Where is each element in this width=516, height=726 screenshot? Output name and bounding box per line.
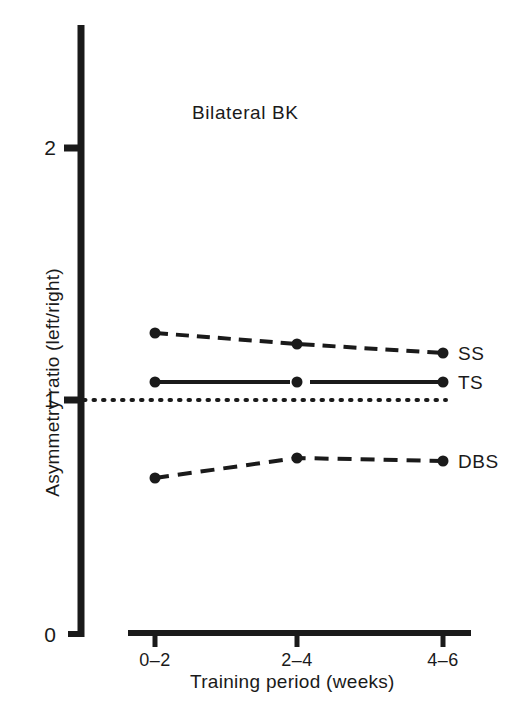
series-point-ts-1 bbox=[292, 377, 303, 388]
y-tick-label-0: 0 bbox=[30, 624, 56, 645]
series-point-ss-0 bbox=[150, 328, 161, 339]
series-point-ts-2 bbox=[438, 377, 449, 388]
legend-label-ts: TS bbox=[458, 373, 483, 392]
chart-title: Bilateral BK bbox=[192, 103, 298, 122]
series-point-ts-0 bbox=[150, 377, 161, 388]
y-tick-label-1: 1 bbox=[30, 389, 56, 410]
x-axis-label: Training period (weeks) bbox=[190, 672, 395, 691]
legend-label-dbs: DBS bbox=[458, 452, 499, 471]
x-tick-label-1: 2–4 bbox=[262, 651, 332, 669]
series-point-ss-2 bbox=[438, 348, 449, 359]
series-point-dbs-1 bbox=[292, 453, 303, 464]
series-point-ss-1 bbox=[292, 339, 303, 350]
y-tick-label-2: 2 bbox=[30, 137, 56, 158]
series-point-dbs-2 bbox=[438, 456, 449, 467]
series-point-dbs-0 bbox=[150, 473, 161, 484]
chart-figure: Bilateral BK Asymmetry ratio (left/right… bbox=[0, 0, 516, 726]
x-tick-label-2: 4–6 bbox=[408, 651, 478, 669]
x-tick-label-0: 0–2 bbox=[120, 651, 190, 669]
y-axis-label: Asymmetry ratio (left/right) bbox=[43, 233, 62, 533]
legend-label-ss: SS bbox=[458, 344, 484, 363]
